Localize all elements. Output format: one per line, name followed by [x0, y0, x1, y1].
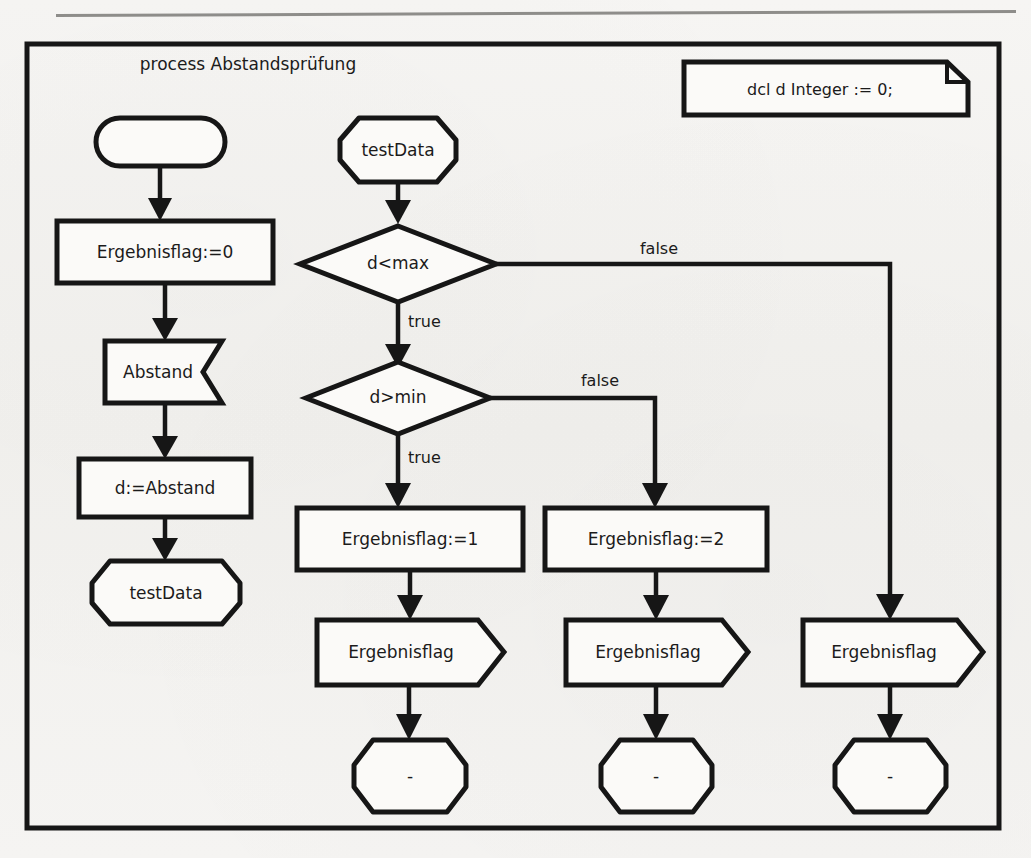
task-flag-one-label: Ergebnisflag:=1	[342, 529, 479, 549]
node-task-flag-one: Ergebnisflag:=1	[297, 508, 523, 570]
node-state-dash-right: -	[835, 740, 946, 812]
flow-start-to-task0	[148, 166, 172, 221]
flow-outputmid-to-state	[643, 685, 669, 740]
flow-dmax-true: true	[385, 302, 441, 368]
node-output-flag-right: Ergebnisflag	[803, 620, 983, 685]
flow-outputright-to-state	[877, 685, 903, 740]
flow-outputleft-to-state	[396, 685, 422, 740]
task-flag-two-label: Ergebnisflag:=2	[588, 529, 725, 549]
node-state-testdata-left: testData	[92, 561, 240, 624]
node-state-testdata-top: testData	[340, 118, 456, 182]
flow-flagone-to-output	[397, 570, 423, 620]
state-testdata-top-label: testData	[361, 140, 434, 160]
decision-dmin-label: d>min	[369, 387, 426, 407]
node-output-flag-left: Ergebnisflag	[317, 620, 504, 685]
node-decision-dmin: d>min	[306, 362, 490, 434]
process-title: process Abstandsprüfung	[140, 54, 356, 74]
node-task-flag-zero: Ergebnisflag:=0	[57, 221, 273, 283]
state-dash-left-label: -	[407, 766, 413, 786]
flow-dmin-false: false	[490, 371, 668, 509]
edge-label-dmin-false: false	[581, 371, 619, 390]
flow-dassign-to-testdata	[152, 517, 178, 561]
input-abstand-label: Abstand	[123, 362, 193, 382]
flow-testdata-to-dmax	[385, 182, 411, 224]
output-flag-mid-label: Ergebnisflag	[595, 642, 701, 662]
flow-task0-to-abstand	[152, 283, 178, 341]
declaration-text: dcl d Integer := 0;	[747, 80, 893, 99]
declaration-note: dcl d Integer := 0;	[684, 62, 968, 115]
state-dash-right-label: -	[887, 766, 893, 786]
flow-flagtwo-to-output	[643, 570, 669, 620]
edge-label-dmin-true: true	[408, 448, 441, 467]
node-state-dash-left: -	[354, 740, 466, 812]
flow-dmin-true: true	[385, 434, 441, 508]
node-input-abstand: Abstand	[105, 341, 222, 403]
edge-label-dmax-true: true	[408, 312, 441, 331]
output-flag-right-label: Ergebnisflag	[831, 642, 937, 662]
node-output-flag-mid: Ergebnisflag	[566, 620, 748, 685]
node-state-dash-mid: -	[601, 740, 712, 812]
diagram-page: process Abstandsprüfung dcl d Integer :=…	[0, 0, 1031, 858]
state-dash-mid-label: -	[653, 766, 659, 786]
decision-dmax-label: d<max	[367, 253, 429, 273]
output-flag-left-label: Ergebnisflag	[348, 642, 454, 662]
state-testdata-left-label: testData	[129, 583, 202, 603]
node-start-state	[96, 118, 225, 166]
flow-abstand-to-dassign	[152, 403, 178, 459]
task-d-assign-label: d:=Abstand	[115, 478, 216, 498]
sdl-process-diagram: process Abstandsprüfung dcl d Integer :=…	[0, 0, 1031, 858]
edge-label-dmax-false: false	[640, 239, 678, 258]
node-decision-dmax: d<max	[300, 226, 496, 302]
task-flag-zero-label: Ergebnisflag:=0	[97, 242, 234, 262]
node-task-flag-two: Ergebnisflag:=2	[545, 508, 767, 570]
node-task-d-assign: d:=Abstand	[79, 459, 251, 517]
